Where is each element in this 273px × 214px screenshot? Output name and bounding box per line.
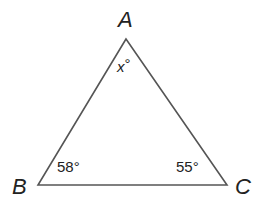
triangle-diagram: A B C x° 58° 55° (0, 0, 273, 214)
angle-a-degree: ° (125, 55, 131, 72)
angle-c-label: 55° (176, 158, 199, 175)
angle-a-label: x° (116, 55, 131, 75)
vertex-label-b: B (12, 174, 27, 199)
vertex-label-c: C (235, 174, 251, 199)
vertex-label-a: A (116, 7, 133, 32)
angle-b-label: 58° (57, 158, 80, 175)
